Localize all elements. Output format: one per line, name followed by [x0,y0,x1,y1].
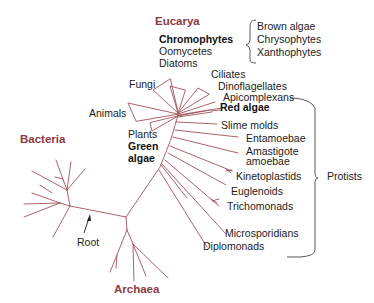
fungi-label: Fungi [129,78,155,90]
kinetoplastids-label: Kinetoplastids [236,170,301,182]
animals-label: Animals [89,107,126,119]
chrysophytes-label: Chrysophytes [257,33,321,45]
slime-molds-label: Slime molds [221,119,278,131]
protists-label: Protists [327,170,362,182]
plants-label: Plants [128,128,157,140]
entamoebae-label: Entamoebae [246,132,306,144]
root-arrow-icon [84,214,91,233]
xanthophytes-label: Xanthophytes [257,46,321,58]
root-label: Root [77,236,99,248]
root-branch [70,206,126,217]
archaea-label: Archaea [114,283,159,295]
red-algae-label: Red algae [220,101,270,113]
euglenoids-label: Euglenoids [231,185,283,197]
diplomonads-label: Diplomonads [203,240,264,252]
eucarya-label: Eucarya [155,15,200,27]
oomycetes-label: Oomycetes [159,45,212,57]
bacteria-label: Bacteria [20,133,65,145]
microsporidians-label: Microsporidians [225,227,299,239]
chromophytes-brace [246,20,256,63]
green-algae-label-1: Green [128,140,158,152]
chromophytes-label: Chromophytes [159,33,233,45]
diatoms-label: Diatoms [159,57,198,69]
brown-algae-label: Brown algae [257,20,315,32]
trichomonads-label: Trichomonads [227,200,293,212]
ciliates-label: Ciliates [211,68,245,80]
amoebae-label: amoebae [246,155,290,167]
tree-of-life-diagram: Eucarya Bacteria Archaea Chromophytes Oo… [0,0,374,303]
green-algae-label-2: algae [128,152,155,164]
